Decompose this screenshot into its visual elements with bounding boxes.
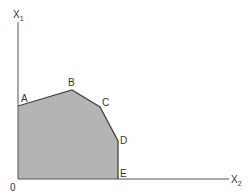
x2-axis-label: X2 xyxy=(231,174,242,187)
vertex-label-b: B xyxy=(68,77,75,88)
vertex-label-a: A xyxy=(21,93,28,104)
x1-axis-label: X1 xyxy=(13,9,24,22)
diagram-canvas: X1 X2 0 A B C D E xyxy=(0,0,250,196)
vertex-label-e: E xyxy=(120,168,127,179)
origin-label: 0 xyxy=(10,182,16,193)
vertex-label-c: C xyxy=(102,97,109,108)
vertex-label-d: D xyxy=(120,135,127,146)
